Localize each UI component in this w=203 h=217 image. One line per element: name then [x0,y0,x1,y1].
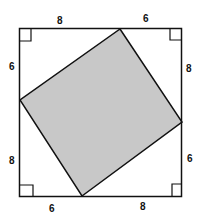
inner-shaded-square [20,29,182,196]
right-angle-icon-bottom-right [172,184,182,196]
right-angle-icon-top-left [20,29,32,41]
right-angle-icon-top-right [170,29,182,40]
label-right-top-segment: 8 [186,64,192,74]
right-angle-icon-bottom-left [20,185,33,196]
label-bottom-left-segment: 6 [49,204,55,214]
label-top-left-segment: 8 [57,16,63,26]
label-bottom-right-segment: 8 [140,202,146,212]
label-top-right-segment: 6 [143,14,149,24]
diagram-canvas [0,0,203,217]
label-right-bottom-segment: 6 [187,154,193,164]
label-left-top-segment: 6 [9,62,15,72]
label-left-bottom-segment: 8 [9,156,15,166]
